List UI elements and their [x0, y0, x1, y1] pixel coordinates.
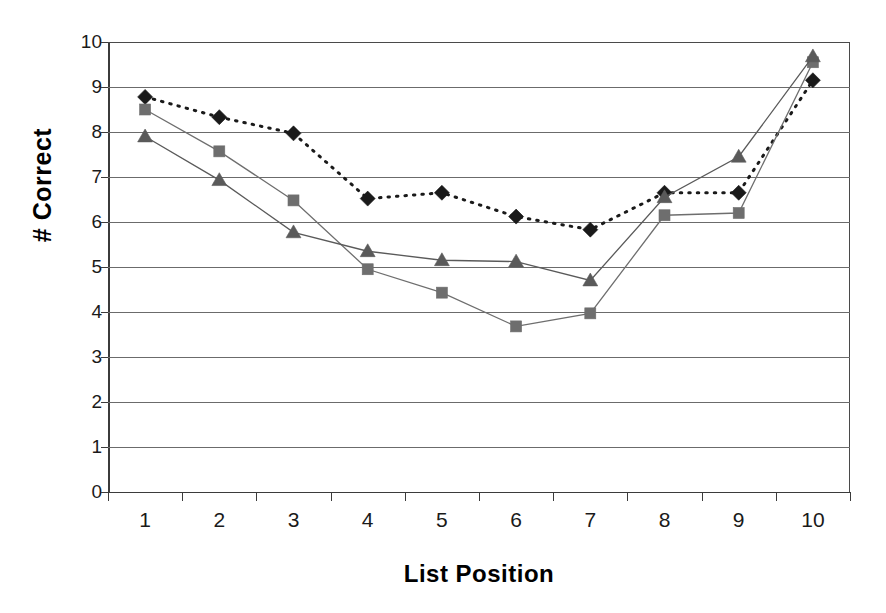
- square-marker: [511, 321, 522, 332]
- series-triangle: [138, 49, 821, 286]
- x-axis-ticks: 12345678910: [108, 492, 850, 552]
- square-marker: [659, 210, 670, 221]
- x-tick-label: 3: [274, 508, 314, 532]
- y-tick-label: 5: [58, 256, 102, 278]
- series-line: [145, 80, 813, 229]
- series-square: [140, 57, 819, 332]
- plot-area: [108, 42, 850, 492]
- x-tick-mark: [256, 492, 257, 501]
- x-tick-label: 10: [793, 508, 833, 532]
- triangle-marker: [138, 129, 153, 142]
- serial-position-chart: # Correct 012345678910 12345678910 List …: [0, 0, 886, 613]
- x-tick-mark: [108, 492, 109, 501]
- x-axis-title: List Position: [108, 560, 850, 588]
- x-tick-label: 2: [199, 508, 239, 532]
- square-marker: [288, 195, 299, 206]
- triangle-marker: [805, 49, 820, 62]
- x-tick-label: 7: [570, 508, 610, 532]
- series-layer: [108, 42, 850, 492]
- x-tick-mark: [553, 492, 554, 501]
- diamond-marker: [434, 185, 449, 200]
- y-tick-label: 2: [58, 391, 102, 413]
- series-line: [145, 62, 813, 326]
- y-tick-label: 8: [58, 121, 102, 143]
- y-tick-label: 7: [58, 166, 102, 188]
- square-marker: [214, 146, 225, 157]
- y-tick-label: 6: [58, 211, 102, 233]
- x-tick-mark: [627, 492, 628, 501]
- y-tick-label: 9: [58, 76, 102, 98]
- diamond-marker: [731, 185, 746, 200]
- y-tick-label: 1: [58, 436, 102, 458]
- diamond-marker: [212, 110, 227, 125]
- diamond-marker: [138, 89, 153, 104]
- diamond-marker: [360, 191, 375, 206]
- square-marker: [436, 287, 447, 298]
- y-tick-label: 4: [58, 301, 102, 323]
- square-marker: [362, 264, 373, 275]
- y-axis-ticks: 012345678910: [46, 42, 102, 492]
- x-tick-label: 5: [422, 508, 462, 532]
- square-marker: [585, 308, 596, 319]
- x-tick-label: 9: [719, 508, 759, 532]
- series-diamond: [138, 73, 821, 237]
- diamond-marker: [805, 73, 820, 88]
- x-tick-mark: [850, 492, 851, 501]
- triangle-marker: [212, 173, 227, 186]
- x-tick-label: 6: [496, 508, 536, 532]
- x-tick-mark: [702, 492, 703, 501]
- diamond-marker: [583, 222, 598, 237]
- square-marker: [140, 104, 151, 115]
- y-tick-label: 10: [58, 31, 102, 53]
- triangle-marker: [286, 225, 301, 238]
- triangle-marker: [509, 254, 524, 267]
- x-tick-label: 1: [125, 508, 165, 532]
- x-tick-label: 8: [645, 508, 685, 532]
- x-tick-mark: [479, 492, 480, 501]
- triangle-marker: [731, 149, 746, 162]
- x-tick-label: 4: [348, 508, 388, 532]
- x-tick-mark: [331, 492, 332, 501]
- square-marker: [733, 208, 744, 219]
- x-tick-mark: [776, 492, 777, 501]
- x-tick-mark: [182, 492, 183, 501]
- x-tick-mark: [405, 492, 406, 501]
- y-tick-label: 0: [58, 481, 102, 503]
- y-tick-label: 3: [58, 346, 102, 368]
- diamond-marker: [509, 209, 524, 224]
